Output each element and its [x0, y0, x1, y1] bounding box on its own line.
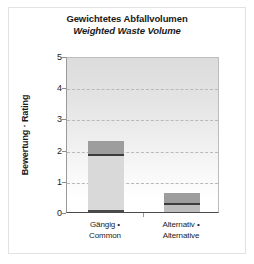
chart-title: Gewichtetes Abfallvolumen [0, 13, 254, 24]
bar-alternativ-alternative[interactable] [164, 193, 200, 212]
y-axis-tick-labels: 5 4 3 2 1 0 [18, 57, 62, 213]
y-tick-label-3: 3 [22, 114, 62, 124]
bar-segment-cap [88, 141, 124, 154]
y-tick-label-5: 5 [22, 52, 62, 62]
y-tick-label-2: 2 [22, 146, 62, 156]
bar-segment-base [88, 210, 124, 213]
bar-segment-cap [164, 193, 200, 202]
y-tick-label-0: 0 [22, 208, 62, 218]
bar-segment-base [164, 205, 200, 212]
plot-area [66, 57, 219, 213]
x-label-line-en: Alternative [136, 230, 226, 241]
bar-segment-body [88, 156, 124, 209]
chart-title-block: Gewichtetes Abfallvolumen Weighted Waste… [0, 13, 254, 36]
x-tick-mark-center [143, 213, 144, 217]
x-tick-label-alternativ-alternative: Alternativ • Alternative [136, 219, 226, 241]
x-axis-tick-labels: Gängig • Common Alternativ • Alternative [66, 219, 219, 249]
gridline-4 [67, 89, 218, 90]
y-tick-mark-0 [62, 213, 66, 214]
chart-subtitle: Weighted Waste Volume [0, 25, 254, 36]
bar-gaengig-common[interactable] [88, 141, 124, 212]
chart-figure: Gewichtetes Abfallvolumen Weighted Waste… [0, 0, 254, 264]
gridline-3 [67, 120, 218, 121]
x-label-line-de: Alternativ • [136, 219, 226, 230]
y-tick-label-1: 1 [22, 177, 62, 187]
y-tick-label-4: 4 [22, 83, 62, 93]
